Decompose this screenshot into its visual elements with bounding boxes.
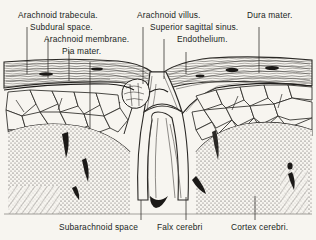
label-superior-sagittal-sinus: Superior sagittal sinus. [150, 22, 238, 32]
label-dura-mater: Dura mater. [247, 10, 292, 20]
label-subarachnoid-space: Subarachnoid space [59, 222, 138, 232]
meninges-figure: Arachnoid trabecula. Subdural space. Ara… [0, 0, 316, 240]
label-arachnoid-membrane: Arachnoid membrane. [44, 34, 129, 44]
label-arachnoid-trabecula: Arachnoid trabecula. [18, 10, 98, 20]
label-falx-cerebri: Falx cerebri [157, 222, 203, 232]
label-endothelium: Endothelium. [177, 34, 228, 44]
label-subdural-space: Subdural space. [30, 22, 93, 32]
label-cortex-cerebri: Cortex cerebri. [231, 222, 288, 232]
label-arachnoid-villus: Arachnoid villus. [137, 10, 201, 20]
label-pia-mater: Pia mater. [62, 46, 101, 56]
